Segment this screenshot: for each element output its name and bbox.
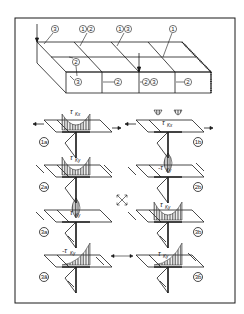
tau-sub-2a: Ky — [75, 158, 81, 163]
tau-label-1a: τ — [70, 108, 73, 115]
tau-sub-3b-tilde: Ky — [163, 254, 169, 259]
panel-label-3a-tilde: 3ã — [41, 274, 48, 280]
tau-sub-3a: Ky — [75, 213, 81, 218]
panel-3a — [36, 198, 112, 248]
panel-2a — [36, 157, 112, 203]
load-arrow-left — [36, 24, 39, 42]
tau-label-3a: τ — [70, 209, 73, 216]
cross-arrows-icon — [117, 195, 127, 205]
tau-sub-1b: Kx — [167, 123, 173, 128]
panel-1b — [125, 110, 213, 158]
tau-label-3b-tilde: τ — [158, 250, 161, 257]
tau-sub-2b: Ky — [166, 168, 172, 173]
tau-label-2a: τ — [70, 154, 73, 161]
panel-3b-tilde — [136, 243, 204, 293]
double-arrow-icon — [111, 255, 133, 258]
tau-sub-3a-tilde: Ky — [70, 251, 76, 256]
load-arrow-center — [138, 53, 141, 72]
tau-label-2b: -τ — [158, 164, 163, 171]
tau-label-3a-tilde: -τ — [62, 247, 67, 254]
box-section-block — [37, 42, 211, 93]
tau-sub-1a: Kx — [75, 112, 81, 117]
tau-label-1b: τ — [162, 119, 165, 126]
panel-label-1b: 1b — [195, 139, 202, 145]
panel-label-2a: 2a — [41, 184, 48, 190]
panel-2b — [128, 153, 204, 203]
figure-frame — [15, 18, 235, 303]
panel-label-2b: 2b — [195, 184, 202, 190]
tau-sub-3b: Ky — [165, 205, 171, 210]
tau-label-3b: τ — [160, 201, 163, 208]
panel-label-3a: 3a — [41, 229, 48, 235]
panel-3a-tilde — [40, 243, 113, 293]
diagram-figure: 3 1 2 1 3 1 2 3 2 2 3 2 1a — [0, 0, 244, 314]
panel-1a — [33, 114, 121, 158]
panel-label-3b-tilde: 3b̃ — [195, 274, 202, 280]
panel-label-1a: 1a — [41, 139, 48, 145]
panel-label-3b: 3b — [195, 229, 202, 235]
